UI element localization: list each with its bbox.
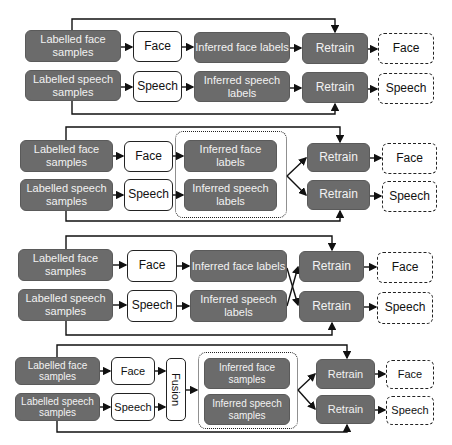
- labelled-face-label: Labelled face samples: [16, 360, 99, 383]
- retrain-speech: Retrain: [302, 72, 368, 103]
- inferred-speech-label: Inferred speech labels: [185, 182, 276, 207]
- output-speech-model: Speech: [386, 396, 434, 425]
- retrain-face: Retrain: [302, 33, 368, 64]
- retrain-face-label: Retrain: [328, 368, 363, 381]
- retrain-speech-label: Retrain: [316, 81, 355, 95]
- speech-model: Speech: [127, 290, 177, 322]
- inferred-face-label: Inferred face labels: [195, 41, 289, 54]
- retrain-speech-label: Retrain: [328, 403, 363, 416]
- speech-model: Speech: [111, 393, 155, 421]
- labelled-speech-label: Labelled speech samples: [21, 182, 112, 207]
- retrain-face-label: Retrain: [319, 151, 358, 165]
- retrain-face-label: Retrain: [316, 42, 355, 56]
- face-model-label: Face: [121, 365, 145, 378]
- output-speech-label: Speech: [385, 301, 426, 315]
- retrain-speech-label: Retrain: [312, 300, 351, 314]
- retrain-speech: Retrain: [299, 291, 364, 322]
- inferred-face-samples: Inferred face samples: [204, 358, 290, 389]
- output-speech-label: Speech: [389, 190, 430, 204]
- output-face-model: Face: [382, 143, 437, 174]
- output-face-label: Face: [392, 261, 419, 275]
- labelled-face-samples: Labelled face samples: [20, 140, 113, 172]
- face-model: Face: [124, 141, 173, 172]
- inferred-speech-label: Inferred speech labels: [195, 74, 289, 99]
- face-model-label: Face: [139, 259, 166, 273]
- fusion-label: Fusion: [170, 373, 183, 406]
- labelled-speech-samples: Labelled speech samples: [25, 70, 121, 101]
- retrain-face: Retrain: [307, 143, 370, 172]
- inferred-speech-label: Inferred speech samples: [205, 398, 289, 421]
- output-face-label: Face: [398, 368, 422, 381]
- inferred-face-label: Inferred face labels: [192, 260, 286, 273]
- speech-model-label: Speech: [128, 188, 169, 202]
- face-model-label: Face: [144, 40, 171, 54]
- inferred-face-labels: Inferred face labels: [184, 140, 277, 172]
- inferred-face-labels: Inferred face labels: [190, 250, 287, 282]
- retrain-face: Retrain: [316, 359, 375, 389]
- face-model: Face: [127, 250, 177, 282]
- output-face-model: Face: [377, 252, 433, 283]
- inferred-speech-samples: Inferred speech samples: [204, 394, 290, 425]
- labelled-speech-samples: Labelled speech samples: [15, 393, 100, 421]
- labelled-speech-samples: Labelled speech samples: [18, 289, 113, 321]
- output-face-model: Face: [378, 33, 434, 64]
- speech-model-label: Speech: [137, 80, 178, 94]
- retrain-speech: Retrain: [307, 180, 370, 210]
- retrain-speech: Retrain: [316, 395, 375, 424]
- labelled-face-samples: Labelled face samples: [25, 30, 121, 62]
- labelled-speech-label: Labelled speech samples: [19, 292, 112, 317]
- face-model: Face: [111, 357, 155, 385]
- speech-model: Speech: [133, 71, 182, 102]
- output-speech-model: Speech: [377, 292, 433, 324]
- output-speech-label: Speech: [391, 404, 428, 417]
- output-face-model: Face: [386, 360, 434, 389]
- labelled-face-samples: Labelled face samples: [18, 249, 113, 281]
- output-face-label: Face: [393, 42, 420, 56]
- labelled-speech-samples: Labelled speech samples: [20, 179, 113, 211]
- output-speech-model: Speech: [382, 181, 437, 212]
- inferred-speech-labels: Inferred speech labels: [190, 290, 287, 322]
- labelled-speech-label: Labelled speech samples: [26, 73, 120, 98]
- retrain-face: Retrain: [299, 251, 364, 282]
- labelled-face-label: Labelled face samples: [26, 33, 120, 58]
- retrain-face-label: Retrain: [312, 260, 351, 274]
- inferred-face-label: Inferred face labels: [185, 143, 276, 168]
- inferred-speech-label: Inferred speech labels: [191, 293, 286, 318]
- labelled-face-samples: Labelled face samples: [15, 357, 100, 385]
- output-speech-model: Speech: [378, 73, 434, 104]
- inferred-face-labels: Inferred face labels: [194, 32, 290, 63]
- inferred-face-label: Inferred face samples: [205, 362, 289, 385]
- output-speech-label: Speech: [386, 82, 427, 96]
- face-model-label: Face: [135, 150, 162, 164]
- face-model: Face: [133, 31, 182, 62]
- output-face-label: Face: [396, 152, 423, 166]
- labelled-face-label: Labelled face samples: [19, 252, 112, 277]
- inferred-speech-labels: Inferred speech labels: [194, 71, 290, 102]
- speech-model: Speech: [124, 179, 173, 211]
- diagram-canvas: Labelled face samples Face Inferred face…: [0, 0, 452, 445]
- inferred-speech-labels: Inferred speech labels: [184, 179, 277, 211]
- speech-model-label: Speech: [114, 401, 151, 414]
- speech-model-label: Speech: [132, 299, 173, 313]
- labelled-face-label: Labelled face samples: [21, 143, 112, 168]
- labelled-speech-label: Labelled speech samples: [16, 396, 99, 419]
- retrain-speech-label: Retrain: [319, 188, 358, 202]
- fusion-block: Fusion: [166, 358, 186, 421]
